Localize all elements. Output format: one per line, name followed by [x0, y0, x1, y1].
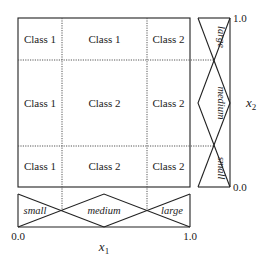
x1-mf-medium-label: medium: [87, 205, 121, 216]
x1-mf-large-label: large: [161, 205, 183, 216]
grid-cell-r2-c0: Class 1: [24, 160, 56, 172]
grid-cell-r1-c2: Class 2: [152, 97, 184, 109]
x1-membership-functions: small medium large 0.0 1.0 x1: [11, 194, 197, 256]
x2-mf-small-label: small: [216, 157, 227, 180]
x2-axis-label: x2: [245, 95, 256, 112]
x2-mf-large-label: large: [216, 26, 227, 48]
rule-grid: Class 1 Class 1 Class 2 Class 1 Class 2 …: [18, 18, 214, 211]
x1-tick-max: 1.0: [183, 230, 197, 242]
grid-cell-r2-c2: Class 2: [152, 160, 184, 172]
grid-cell-r2-c1: Class 2: [88, 160, 120, 172]
x1-mf-small-label: small: [24, 205, 47, 216]
x2-tick-min: 0.0: [233, 181, 247, 193]
x2-tick-max: 1.0: [233, 12, 247, 24]
x2-mf-medium-label: medium: [216, 86, 227, 120]
x1-tick-min: 0.0: [11, 230, 25, 242]
x2-membership-functions: large medium small 1.0 0.0 x2: [198, 12, 256, 193]
grid-cell-r1-c0: Class 1: [24, 97, 56, 109]
grid-cell-r0-c2: Class 2: [152, 33, 184, 45]
fuzzy-classification-diagram: Class 1 Class 1 Class 2 Class 1 Class 2 …: [0, 0, 267, 261]
x1-axis-label: x1: [98, 239, 109, 256]
grid-cell-r0-c0: Class 1: [24, 33, 56, 45]
grid-cell-r1-c1: Class 2: [88, 97, 120, 109]
grid-cell-r0-c1: Class 1: [88, 33, 120, 45]
